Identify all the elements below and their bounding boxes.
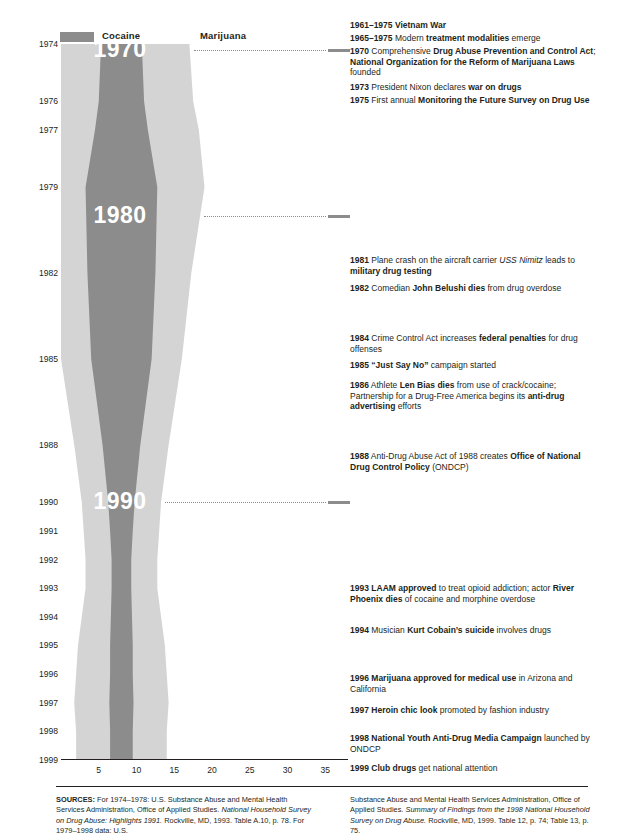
timeline-event-text: Vietnam War xyxy=(393,20,446,30)
timeline-event: 1993 LAAM approved to treat opioid addic… xyxy=(350,583,598,604)
decade-dash-1990 xyxy=(328,501,350,504)
timeline-event-text: Anti-Drug Abuse Act of 1988 creates Offi… xyxy=(350,451,581,472)
decade-leader-1990 xyxy=(165,502,326,503)
timeline-event-text: Club drugs get national attention xyxy=(369,763,498,773)
timeline-event-year: 1965–1975 xyxy=(350,33,393,43)
x-tick-20: 20 xyxy=(207,765,217,775)
infographic-page: Cocaine Marijuana 1974197619771979198219… xyxy=(0,0,618,840)
year-label-1991: 1991 xyxy=(28,526,58,536)
decade-dash-1970 xyxy=(328,49,350,52)
timeline-event-year: 1993 xyxy=(350,583,369,593)
year-label-1988: 1988 xyxy=(28,440,58,450)
chart-plot-area xyxy=(61,44,348,760)
year-label-1974: 1974 xyxy=(28,39,58,49)
decade-leader-1980 xyxy=(204,216,326,217)
timeline-event-year: 1981 xyxy=(350,255,369,265)
timeline-event: 1982 Comedian John Belushi dies from dru… xyxy=(350,283,598,294)
timeline-event-text: Athlete Len Bias dies from use of crack/… xyxy=(350,380,564,411)
timeline-event-year: 1984 xyxy=(350,333,369,343)
timeline-event-text: Plane crash on the aircraft carrier USS … xyxy=(350,255,575,276)
timeline-event: 1981 Plane crash on the aircraft carrier… xyxy=(350,255,598,276)
year-label-1998: 1998 xyxy=(28,726,58,736)
timeline-event-year: 1982 xyxy=(350,283,369,293)
timeline-event-text: National Youth Anti-Drug Media Campaign … xyxy=(350,733,590,754)
timeline-event-year: 1998 xyxy=(350,733,369,743)
timeline-event-year: 1997 xyxy=(350,705,369,715)
timeline-event: 1996 Marijuana approved for medical use … xyxy=(350,673,598,694)
x-tick-30: 30 xyxy=(283,765,293,775)
year-label-1993: 1993 xyxy=(28,583,58,593)
timeline-event-year: 1996 xyxy=(350,673,369,683)
timeline-event-text: First annual Monitoring the Future Surve… xyxy=(369,95,590,105)
timeline-event-year: 1970 xyxy=(350,46,369,56)
decade-dash-1980 xyxy=(328,215,350,218)
timeline-event-text: Comprehensive Drug Abuse Prevention and … xyxy=(350,46,596,77)
source-note-right: Substance Abuse and Mental Health Servic… xyxy=(350,795,598,837)
timeline-event: 1986 Athlete Len Bias dies from use of c… xyxy=(350,380,598,412)
legend-swatch-cocaine xyxy=(60,32,94,42)
x-tick-5: 5 xyxy=(96,765,101,775)
decade-label-1980: 1980 xyxy=(93,202,146,229)
timeline-event-text: Heroin chic look promoted by fashion ind… xyxy=(369,705,549,715)
decade-label-1990: 1990 xyxy=(93,488,146,515)
stream-chart: 1974197619771979198219851988199019911992… xyxy=(28,44,348,774)
timeline-event-text: LAAM approved to treat opioid addiction;… xyxy=(350,583,574,604)
timeline-event: 1975 First annual Monitoring the Future … xyxy=(350,95,598,106)
source-note-left: SOURCES: For 1974–1978: U.S. Substance A… xyxy=(56,795,314,837)
timeline-event-text: President Nixon declares war on drugs xyxy=(369,82,522,92)
event-timeline: 1961–1975 Vietnam War1965–1975 Modern tr… xyxy=(350,20,600,765)
year-label-1977: 1977 xyxy=(28,125,58,135)
timeline-event-year: 1975 xyxy=(350,95,369,105)
timeline-event-text: Modern treatment modalities emerge xyxy=(393,33,541,43)
timeline-event: 1961–1975 Vietnam War xyxy=(350,20,598,31)
stream-areas xyxy=(61,44,348,760)
timeline-event: 1997 Heroin chic look promoted by fashio… xyxy=(350,705,598,716)
year-label-1976: 1976 xyxy=(28,96,58,106)
timeline-event-year: 1988 xyxy=(350,451,369,461)
year-label-1979: 1979 xyxy=(28,182,58,192)
timeline-event: 1999 Club drugs get national attention xyxy=(350,763,598,774)
timeline-event: 1988 Anti-Drug Abuse Act of 1988 creates… xyxy=(350,451,598,472)
year-label-1994: 1994 xyxy=(28,612,58,622)
timeline-event: 1970 Comprehensive Drug Abuse Prevention… xyxy=(350,46,598,78)
timeline-event-text: Marijuana approved for medical use in Ar… xyxy=(350,673,573,694)
year-label-1985: 1985 xyxy=(28,354,58,364)
timeline-event-text: Comedian John Belushi dies from drug ove… xyxy=(369,283,561,293)
timeline-event-year: 1973 xyxy=(350,82,369,92)
timeline-event: 1998 National Youth Anti-Drug Media Camp… xyxy=(350,733,598,754)
timeline-event: 1984 Crime Control Act increases federal… xyxy=(350,333,598,354)
footer-divider xyxy=(56,786,588,787)
decade-leader-1970 xyxy=(194,50,326,51)
x-tick-15: 15 xyxy=(170,765,180,775)
year-label-1995: 1995 xyxy=(28,640,58,650)
year-label-1990: 1990 xyxy=(28,497,58,507)
timeline-event-year: 1985 xyxy=(350,360,369,370)
timeline-event: 1985 “Just Say No” campaign started xyxy=(350,360,598,371)
timeline-event-year: 1986 xyxy=(350,380,369,390)
year-label-1982: 1982 xyxy=(28,268,58,278)
year-label-1996: 1996 xyxy=(28,669,58,679)
legend-label-marijuana: Marijuana xyxy=(200,30,246,41)
timeline-event: 1973 President Nixon declares war on dru… xyxy=(350,82,598,93)
timeline-event-text: “Just Say No” campaign started xyxy=(369,360,496,370)
timeline-event-year: 1961–1975 xyxy=(350,20,393,30)
x-axis-ticks: 5101520253035 xyxy=(61,760,348,776)
year-label-1999: 1999 xyxy=(28,755,58,765)
year-label-1992: 1992 xyxy=(28,555,58,565)
timeline-event-text: Crime Control Act increases federal pena… xyxy=(350,333,578,354)
timeline-event: 1965–1975 Modern treatment modalities em… xyxy=(350,33,598,44)
decade-label-1970: 1970 xyxy=(93,36,146,63)
year-axis-labels: 1974197619771979198219851988199019911992… xyxy=(28,44,58,774)
x-tick-25: 25 xyxy=(245,765,255,775)
timeline-event-text: Musician Kurt Cobain’s suicide involves … xyxy=(369,625,551,635)
timeline-event-year: 1999 xyxy=(350,763,369,773)
x-tick-35: 35 xyxy=(321,765,331,775)
timeline-event: 1994 Musician Kurt Cobain’s suicide invo… xyxy=(350,625,598,636)
x-tick-10: 10 xyxy=(132,765,142,775)
timeline-event-year: 1994 xyxy=(350,625,369,635)
year-label-1997: 1997 xyxy=(28,698,58,708)
